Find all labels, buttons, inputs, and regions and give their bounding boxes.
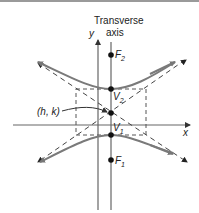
x-axis-label: x xyxy=(182,127,189,138)
transverse-axis-label-line1: Transverse xyxy=(94,15,144,26)
hyperbola-upper-branch xyxy=(38,62,175,89)
focus-f1-point xyxy=(108,157,114,163)
hyperbola-upper-branch-right-end xyxy=(150,62,175,74)
vertex-v1-point xyxy=(108,132,114,138)
center-label: (h, k) xyxy=(37,106,60,117)
focus-f2-point xyxy=(108,52,114,58)
hyperbola-diagram: Transverse axis y x (h, k) F2 V2 V1 F1 xyxy=(0,0,199,213)
center-point xyxy=(108,110,114,116)
center-pointer-arrow xyxy=(62,107,107,112)
y-axis-label: y xyxy=(88,28,95,39)
focus-f1-label: F1 xyxy=(115,155,125,168)
transverse-axis-label-line2: axis xyxy=(106,27,124,38)
vertex-v2-label: V2 xyxy=(113,91,124,104)
hyperbola-lower-branch-right-end xyxy=(150,145,173,154)
vertex-v1-label: V1 xyxy=(113,122,124,135)
focus-f2-label: F2 xyxy=(115,49,125,62)
